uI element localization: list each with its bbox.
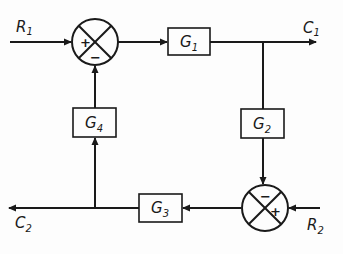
block-diagram: + − − + G1 G2 G3 G4 R1 C1 R2 C2 xyxy=(0,0,343,254)
s1-minus-sign: − xyxy=(90,50,101,65)
output-c1-label: C1 xyxy=(303,19,320,38)
input-r1-label: R1 xyxy=(16,18,33,37)
s2-plus-sign: + xyxy=(270,204,281,219)
output-c2-label: C2 xyxy=(15,214,32,234)
s1-plus-sign: + xyxy=(80,35,91,50)
s2-minus-sign: − xyxy=(260,189,271,204)
input-r2-label: R2 xyxy=(307,216,324,236)
